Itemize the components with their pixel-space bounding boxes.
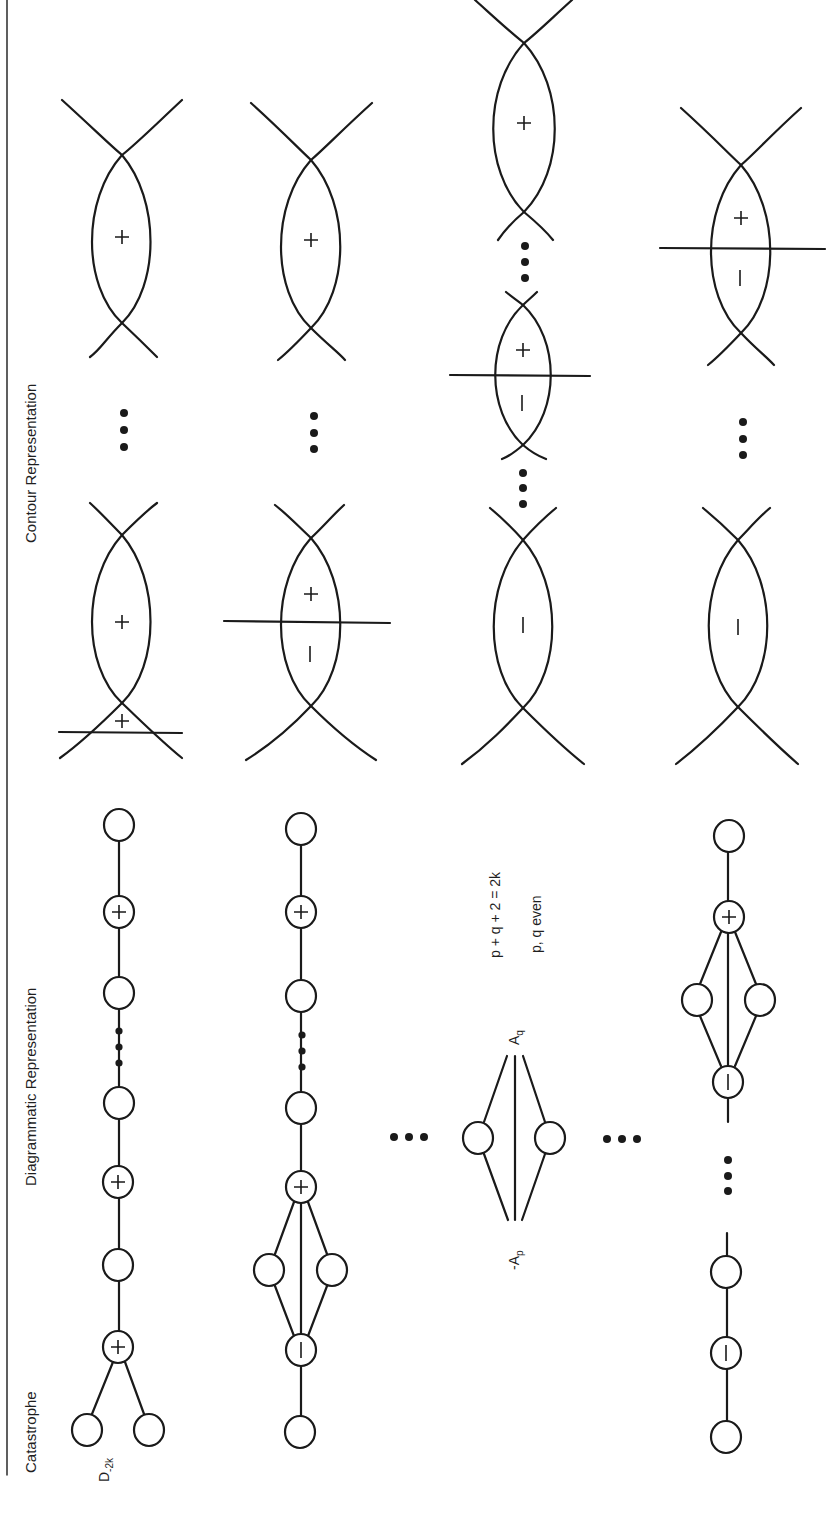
node-empty: [682, 984, 712, 1016]
ellipsis-icon: [603, 1135, 641, 1143]
ellipsis-icon: [298, 1031, 305, 1070]
header-catastrophe: Catastrophe: [22, 1391, 39, 1473]
formula-sum: p + q + 2 = 2k: [487, 872, 503, 958]
diagram-row-2: [275, 845, 327, 1416]
ellipsis-icon: [310, 412, 318, 453]
contour-cut-line: [450, 375, 590, 376]
contour-lens: [676, 508, 798, 764]
plus-icon: [115, 230, 129, 244]
label-aq-sub: q: [514, 1030, 525, 1036]
ellipsis-icon: [519, 469, 527, 508]
node-empty: [104, 977, 134, 1009]
plus-icon: [516, 343, 530, 357]
contour-lens: [62, 100, 182, 357]
plus-icon: [115, 615, 129, 629]
label-ap-main: -A: [506, 1256, 522, 1270]
ellipsis-icon: [521, 242, 529, 282]
ellipsis-icon: [724, 1156, 732, 1195]
catastrophe-label-main: D: [96, 1472, 112, 1482]
node-empty: [745, 984, 775, 1016]
node-empty: [711, 1256, 741, 1288]
node-empty: [104, 809, 134, 841]
catastrophe-label-d2k: D-2k: [96, 1458, 115, 1482]
contour-cut-line: [660, 248, 825, 249]
plus-icon: [734, 211, 748, 225]
node-empty: [254, 1254, 284, 1286]
plus-icon: [304, 233, 318, 247]
contour-cut-line: [59, 732, 182, 733]
node-empty: [714, 820, 744, 852]
plus-icon: [304, 587, 318, 601]
catastrophe-figure: [0, 0, 833, 1514]
node-empty: [104, 1087, 134, 1119]
diagram-row-4: [700, 852, 756, 1421]
contour-lens: [224, 505, 390, 760]
node-empty: [463, 1122, 493, 1154]
node-empty: [72, 1414, 102, 1446]
contour-lens: [251, 103, 372, 360]
ellipsis-icon: [739, 418, 747, 459]
header-contour: Contour Representation: [22, 384, 39, 543]
formula-parity: p, q even: [528, 895, 544, 953]
node-empty: [134, 1414, 164, 1446]
contour-lens: [462, 508, 584, 764]
contour-lens: [660, 108, 825, 365]
contour-cut-line: [224, 621, 390, 623]
plus-icon: [517, 116, 531, 130]
node-empty: [286, 813, 316, 845]
node-empty: [103, 1249, 133, 1281]
contour-lens: [450, 292, 590, 459]
node-empty: [535, 1122, 565, 1154]
ellipsis-icon: [115, 1027, 122, 1066]
node-empty: [711, 1421, 741, 1453]
node-empty: [317, 1254, 347, 1286]
catastrophe-label-sub: -2k: [104, 1458, 115, 1472]
label-ap: -Ap: [506, 1250, 525, 1270]
node-empty: [285, 1416, 315, 1448]
ellipsis-icon: [390, 1133, 428, 1141]
header-diagrammatic: Diagrammatic Representation: [22, 988, 39, 1186]
label-aq: Aq: [506, 1030, 525, 1045]
label-aq-main: A: [506, 1036, 522, 1045]
contour-lens: [59, 503, 182, 758]
node-empty: [286, 980, 316, 1012]
ellipsis-icon: [120, 409, 128, 451]
label-ap-sub: p: [514, 1250, 525, 1256]
plus-icon: [115, 714, 129, 728]
node-empty: [286, 1092, 316, 1124]
